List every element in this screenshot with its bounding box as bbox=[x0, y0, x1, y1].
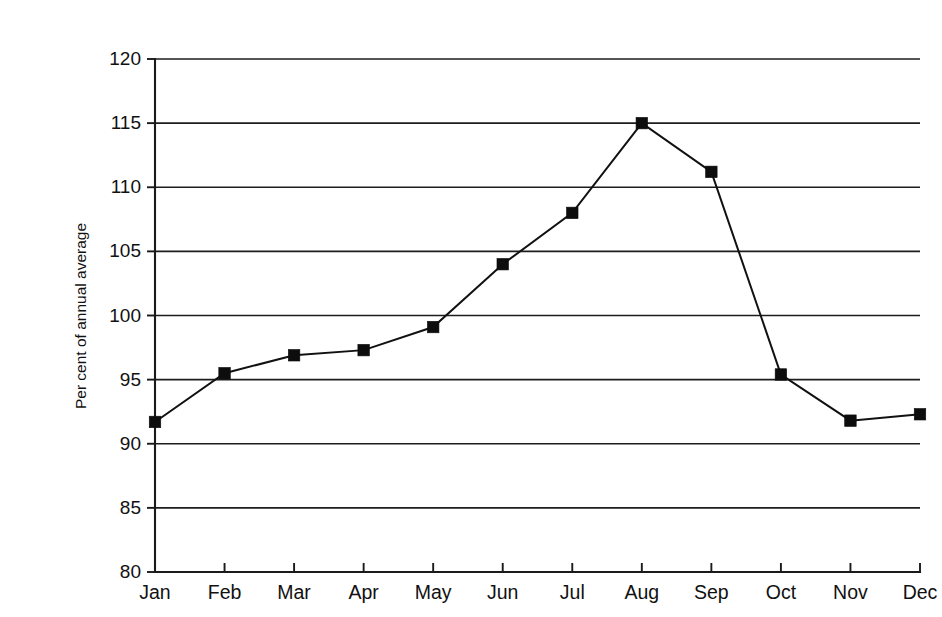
x-tick-label-aug: Aug bbox=[624, 581, 659, 603]
y-tick-label: 90 bbox=[120, 433, 141, 454]
x-tick-label-jan: Jan bbox=[139, 581, 170, 603]
x-tick-label-sep: Sep bbox=[694, 581, 729, 603]
x-tick-label-mar: Mar bbox=[277, 581, 311, 603]
y-tick-label: 80 bbox=[120, 561, 141, 582]
data-point-feb bbox=[219, 367, 231, 379]
data-point-dec bbox=[914, 409, 926, 421]
y-tick-labels-group: 80859095100105110115120 bbox=[109, 48, 141, 582]
data-point-jul bbox=[567, 207, 579, 219]
data-point-jan bbox=[149, 416, 161, 428]
y-tick-label: 85 bbox=[120, 497, 141, 518]
data-series-line bbox=[155, 123, 920, 422]
data-point-oct bbox=[775, 369, 787, 381]
y-tick-label: 120 bbox=[109, 48, 141, 69]
y-tick-label: 100 bbox=[109, 305, 141, 326]
x-tick-label-may: May bbox=[415, 581, 452, 603]
x-tick-marks-group bbox=[155, 563, 920, 572]
data-point-aug bbox=[636, 117, 648, 129]
gridlines-group bbox=[155, 59, 920, 508]
x-tick-label-nov: Nov bbox=[833, 581, 868, 603]
data-point-apr bbox=[358, 344, 370, 356]
x-tick-labels-group: JanFebMarAprMayJunJulAugSepOctNovDec bbox=[139, 581, 937, 603]
data-point-mar bbox=[288, 350, 300, 362]
y-tick-marks-group bbox=[147, 59, 155, 572]
y-axis-title: Per cent of annual average bbox=[72, 223, 89, 409]
seasonal-index-line-chart: 80859095100105110115120 JanFebMarAprMayJ… bbox=[40, 16, 942, 617]
y-tick-label: 115 bbox=[111, 112, 141, 133]
x-tick-label-feb: Feb bbox=[208, 581, 242, 603]
x-tick-label-apr: Apr bbox=[348, 581, 379, 603]
data-point-jun bbox=[497, 258, 509, 270]
x-tick-label-dec: Dec bbox=[903, 581, 938, 603]
y-tick-label: 110 bbox=[111, 176, 141, 197]
data-point-sep bbox=[706, 166, 718, 178]
chart-svg: 80859095100105110115120 JanFebMarAprMayJ… bbox=[40, 16, 942, 617]
data-series-markers-group bbox=[149, 117, 926, 427]
x-tick-label-jul: Jul bbox=[560, 581, 585, 603]
x-tick-label-oct: Oct bbox=[766, 581, 797, 603]
y-tick-label: 105 bbox=[109, 240, 141, 261]
x-tick-label-jun: Jun bbox=[487, 581, 518, 603]
data-point-may bbox=[427, 321, 439, 333]
y-tick-label: 95 bbox=[120, 369, 141, 390]
data-point-nov bbox=[845, 415, 857, 427]
